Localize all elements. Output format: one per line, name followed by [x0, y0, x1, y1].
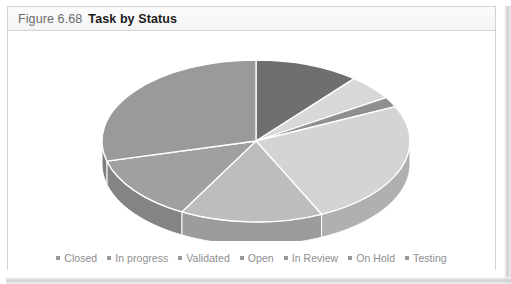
pie-top-faces [102, 60, 410, 222]
legend-swatch-icon [178, 256, 182, 260]
legend-item-label: In progress [115, 252, 168, 264]
legend-swatch-icon [348, 256, 352, 260]
legend-swatch-icon [56, 256, 60, 260]
pie-chart-svg [8, 31, 495, 241]
legend-item-label: Testing [413, 252, 447, 264]
figure-title-bar: Figure 6.68 Task by Status [8, 7, 495, 31]
legend-item[interactable]: Testing [405, 252, 447, 264]
legend-item[interactable]: Closed [56, 252, 97, 264]
legend-item-label: In Review [292, 252, 339, 264]
figure-frame: Figure 6.68 Task by Status ClosedIn prog… [0, 0, 511, 284]
legend-item[interactable]: In Review [284, 252, 339, 264]
legend-item-label: On Hold [356, 252, 395, 264]
legend-item[interactable]: Open [240, 252, 274, 264]
legend-item[interactable]: On Hold [348, 252, 395, 264]
legend-item-label: Open [248, 252, 274, 264]
pie-chart [8, 31, 495, 241]
chart-legend: ClosedIn progressValidatedOpenIn ReviewO… [8, 252, 495, 264]
legend-item[interactable]: In progress [107, 252, 168, 264]
figure-panel: Figure 6.68 Task by Status ClosedIn prog… [7, 6, 496, 270]
legend-item-label: Validated [186, 252, 229, 264]
legend-item[interactable]: Validated [178, 252, 229, 264]
figure-title: Task by Status [88, 12, 177, 26]
frame-shadow-bottom [6, 277, 511, 284]
legend-swatch-icon [240, 256, 244, 260]
legend-item-label: Closed [64, 252, 97, 264]
legend-swatch-icon [405, 256, 409, 260]
legend-swatch-icon [284, 256, 288, 260]
frame-shadow-right [504, 6, 511, 284]
figure-number: Figure 6.68 [18, 12, 82, 26]
plot-area: ClosedIn progressValidatedOpenIn ReviewO… [8, 31, 495, 270]
legend-swatch-icon [107, 256, 111, 260]
